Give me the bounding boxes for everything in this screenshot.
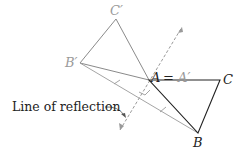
reflection-line-arrowhead-top xyxy=(178,27,183,33)
label-line-of-reflection: Line of reflection xyxy=(12,99,121,114)
label-equals: = xyxy=(163,70,174,85)
label-b-prime: B′ xyxy=(65,55,78,70)
label-b: B xyxy=(193,135,203,150)
reflection-diagram xyxy=(0,0,241,154)
label-c: C xyxy=(223,72,233,87)
tick-mark-2 xyxy=(160,107,166,112)
right-angle-marker xyxy=(139,90,150,95)
label-a-prime: A′ xyxy=(178,70,190,85)
image-triangle xyxy=(80,19,149,80)
label-a: A xyxy=(151,70,160,85)
leader-arrowhead xyxy=(121,113,126,118)
label-c-prime: C′ xyxy=(110,3,123,18)
tick-mark-1 xyxy=(114,80,120,84)
